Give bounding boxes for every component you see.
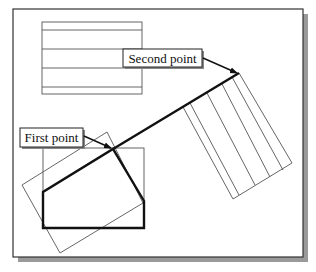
first-point-label: First point bbox=[25, 130, 79, 145]
drawing-canvas: Second point First point bbox=[0, 0, 316, 272]
second-point-label: Second point bbox=[128, 51, 197, 66]
